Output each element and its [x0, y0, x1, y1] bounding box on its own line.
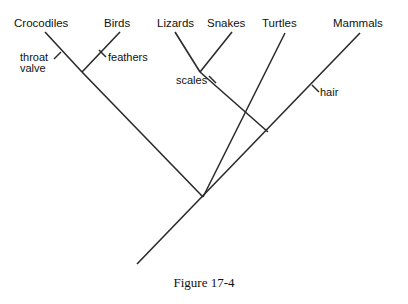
trait-label-throat-valve: throatvalve — [20, 51, 48, 74]
cladogram-diagram: CrocodilesBirdsLizardsSnakesTurtlesMamma… — [0, 0, 408, 304]
taxon-label-crocodiles: Crocodiles — [14, 17, 69, 29]
throat-valve-tick-mark — [54, 52, 61, 59]
taxon-labels-group: CrocodilesBirdsLizardsSnakesTurtlesMamma… — [14, 17, 383, 29]
taxon-label-mammals: Mammals — [333, 17, 383, 29]
hair-tick-mark — [312, 85, 319, 92]
snakes-branch — [200, 32, 232, 72]
trait-label-scales: scales — [176, 74, 208, 86]
taxon-label-birds: Birds — [104, 17, 130, 29]
taxon-label-snakes: Snakes — [207, 17, 246, 29]
figure-caption: Figure 17-4 — [173, 275, 235, 290]
turtles-branch — [203, 33, 285, 197]
squamates-stem — [200, 72, 268, 132]
archosaurs-stem — [82, 72, 203, 197]
taxon-label-turtles: Turtles — [262, 17, 297, 29]
lizards-branch — [175, 32, 200, 72]
taxon-label-lizards: Lizards — [157, 17, 194, 29]
branch-lines-group — [45, 32, 360, 264]
trait-labels-group: throatvalvefeathersscaleshair — [20, 51, 339, 98]
crocodiles-branch — [45, 32, 82, 72]
trait-label-hair: hair — [320, 86, 339, 98]
mammals-branch — [137, 33, 360, 264]
trait-label-feathers: feathers — [108, 51, 148, 63]
scales-tick-mark — [209, 76, 216, 83]
figure-container: CrocodilesBirdsLizardsSnakesTurtlesMamma… — [0, 0, 408, 304]
